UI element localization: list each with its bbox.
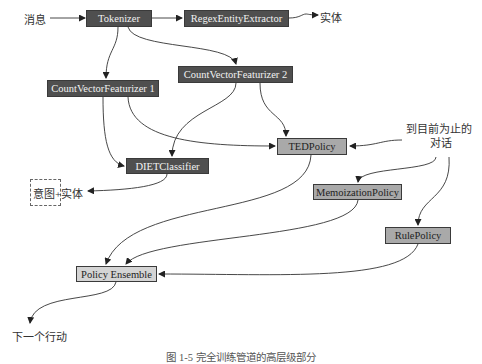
count-vector-featurizer-2-node: CountVectorFeaturizer 2 [178, 66, 293, 83]
tokenizer-node: Tokenizer [86, 10, 152, 27]
figure-caption: 图 1-5 完全训练管道的高层级部分 [0, 349, 482, 364]
rule-policy-node: RulePolicy [385, 227, 451, 244]
intent-entities-output-label: 意图+实体 [33, 185, 83, 201]
message-input-label: 消息 [24, 11, 46, 27]
diet-classifier-node: DIETClassifier [126, 158, 209, 174]
ted-policy-node: TEDPolicy [277, 138, 347, 155]
conversation-so-far-label-line2: 对话 [430, 134, 452, 150]
next-action-output-label: 下一个行动 [12, 328, 67, 344]
count-vector-featurizer-1-node: CountVectorFeaturizer 1 [47, 80, 159, 97]
entities-output-label: 实体 [320, 9, 342, 25]
policy-ensemble-node: Policy Ensemble [76, 266, 157, 282]
regex-entity-extractor-node: RegexEntityExtractor [184, 10, 289, 27]
memoization-policy-node: MemoizationPolicy [313, 184, 402, 200]
